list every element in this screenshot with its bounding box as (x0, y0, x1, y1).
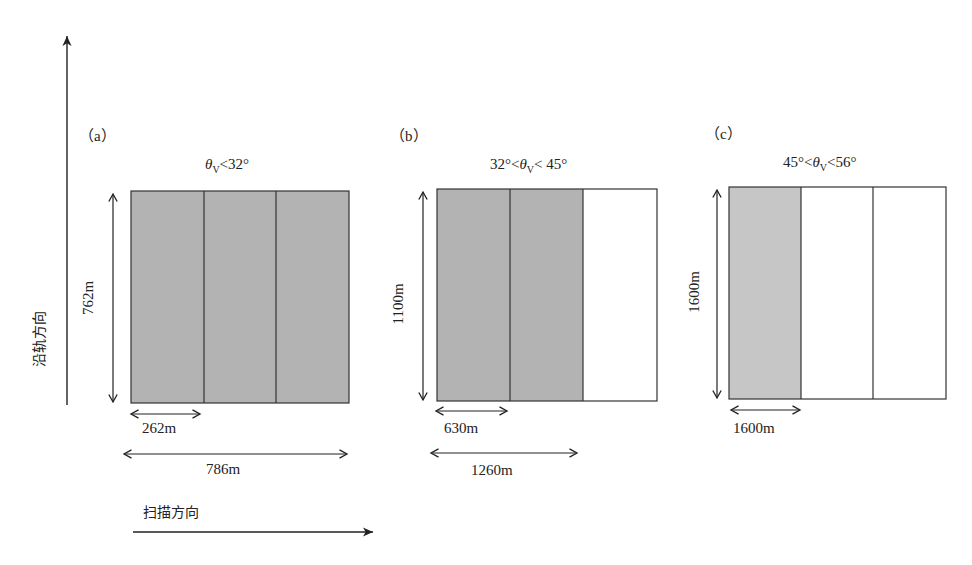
panel-b-label: （b） (390, 129, 428, 144)
panel-c-grid (729, 187, 946, 399)
scan-direction-label: 扫描方向 (143, 505, 199, 519)
panel-c-label: （c） (705, 127, 742, 142)
panel-c-height-label: 1600m (687, 267, 703, 317)
diagram-canvas (0, 0, 972, 565)
panel-a-grid (131, 191, 349, 403)
panel-a-total-width-label: 786m (206, 462, 240, 477)
panel-b-condition: 32°<θV< 45° (490, 157, 567, 175)
along-track-label: 沿轨方向 (32, 309, 48, 369)
panel-a-height-label: 762m (81, 273, 97, 323)
panel-a-cell-width-label: 262m (142, 421, 176, 436)
panel-a-label: （a） (79, 129, 116, 144)
panel-b-grid (437, 189, 657, 401)
panel-c-cell-width-label: 1600m (733, 421, 775, 436)
panel-a-condition: θV<32° (205, 157, 249, 175)
panel-c-condition: 45°<θV<56° (783, 155, 857, 173)
panel-b-cell-width-label: 630m (444, 421, 478, 436)
panel-b-total-width-label: 1260m (471, 463, 513, 478)
panel-b-height-label: 1100m (391, 279, 407, 329)
